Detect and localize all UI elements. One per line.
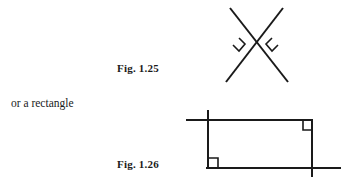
figures-svg xyxy=(0,0,348,184)
right-angle-mark-bottom-left-corner xyxy=(209,158,218,167)
rhombus-line-down-left xyxy=(226,8,283,82)
figure-caption-1-25: Fig. 1.25 xyxy=(117,62,159,74)
right-angle-mark-top-right-corner xyxy=(303,121,312,130)
figure-1-26-rectangle xyxy=(186,110,341,177)
rhombus-line-down-right xyxy=(230,8,288,82)
page-canvas: or a rectangle Fig. 1.25 Fig. 1.26 xyxy=(0,0,348,184)
right-angle-mark-left-vertex xyxy=(233,38,245,51)
figure-caption-1-26: Fig. 1.26 xyxy=(117,158,159,170)
right-angle-mark-right-vertex xyxy=(266,38,278,51)
body-text-or-a-rectangle: or a rectangle xyxy=(11,97,74,109)
figure-1-25-rhombus xyxy=(226,8,288,82)
